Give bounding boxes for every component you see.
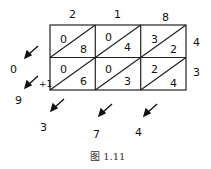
cell-tens: 0 [105,32,112,43]
figure-caption: 图 1.11 [90,148,125,163]
cell-ones: 8 [80,44,87,55]
multiplier-digit: 4 [193,37,200,48]
result-digit: 9 [15,95,22,106]
cell-ones: 4 [170,78,177,89]
cell-ones: 3 [124,76,131,87]
result-digit: 0 [10,64,17,75]
result-digit: 7 [93,129,100,140]
result-digit: 3 [40,122,47,133]
carry-label: +1 [39,79,52,89]
cell-tens: 0 [60,64,67,75]
cell-ones: 2 [170,44,177,55]
cell-ones: 4 [124,42,131,53]
cell-tens: 0 [105,64,112,75]
multiplicand-digit: 2 [69,9,76,20]
multiplier-digit: 3 [193,67,200,78]
multiplicand-digit: 8 [162,12,169,23]
result-digit: 4 [135,127,142,138]
cell-tens: 0 [60,34,67,45]
multiplicand-digit: 1 [114,9,121,20]
cell-tens: 2 [151,64,158,75]
cell-ones: 6 [80,76,87,87]
lattice-grid [0,0,211,169]
cell-tens: 3 [151,34,158,45]
